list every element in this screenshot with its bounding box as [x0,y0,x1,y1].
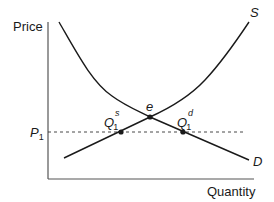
equilibrium-label: e [146,99,153,114]
equilibrium-point [147,114,152,119]
x-axis-label: Quantity [207,184,256,199]
quantity-supplied-point [118,129,123,134]
y-axis-label: Price [13,19,43,34]
demand-curve-label: D [253,154,262,169]
supply-demand-diagram: Price Quantity P1 S D e Q1 s Q1 d [0,0,274,202]
supply-curve-label: S [250,5,259,20]
supply-curve [64,22,249,158]
quantity-demanded-point [180,129,185,134]
quantity-demanded-superscript: d [188,108,194,118]
price-level-label: P1 [30,125,44,142]
quantity-supplied-superscript: s [115,108,120,118]
demand-curve [59,22,249,160]
